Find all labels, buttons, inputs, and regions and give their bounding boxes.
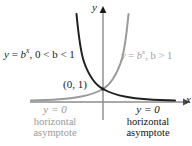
right-asymptote-annotation: y = 0 horizontal asymptote xyxy=(110,104,186,138)
right-curve-equals: = xyxy=(126,50,137,61)
x-axis-label: x xyxy=(186,94,191,106)
exponential-graph-figure: y x y = bx, 0 < b < 1 y = bx, b > 1 (0, … xyxy=(0,0,192,146)
right-curve-condition: , b > 1 xyxy=(145,50,172,61)
left-asymptote-equation: y = 0 xyxy=(18,104,92,116)
right-asymptote-line1: horizontal xyxy=(110,116,186,127)
y-axis-label: y xyxy=(92,2,97,14)
y-axis-arrowhead xyxy=(100,6,107,13)
left-asymptote-line1: horizontal xyxy=(18,116,92,127)
intersection-point-marker xyxy=(101,87,104,90)
left-curve-condition: , 0 < b < 1 xyxy=(29,48,74,60)
right-asymptote-line2: asymptote xyxy=(110,127,186,138)
right-asymptote-equation: y = 0 xyxy=(110,104,186,116)
left-curve-equals: = xyxy=(9,48,21,60)
right-curve-label: y = bx, b > 1 xyxy=(121,49,172,61)
left-asymptote-line2: asymptote xyxy=(18,127,92,138)
left-curve-label: y = bx, 0 < b < 1 xyxy=(4,47,75,60)
intersection-point-label: (0, 1) xyxy=(63,79,87,91)
left-asymptote-annotation: y = 0 horizontal asymptote xyxy=(18,104,92,138)
